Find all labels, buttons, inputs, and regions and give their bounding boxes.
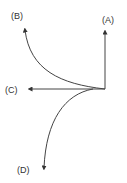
- label-a: (A): [102, 15, 114, 25]
- label-d: (D): [17, 165, 30, 175]
- path-b-arrow: [25, 30, 105, 89]
- diagram-canvas: [0, 0, 127, 183]
- label-c: (C): [5, 85, 18, 95]
- path-d-arrow: [44, 89, 93, 168]
- label-b: (B): [11, 11, 23, 21]
- trajectory-diagram: (A) (B) (C) (D): [0, 0, 127, 183]
